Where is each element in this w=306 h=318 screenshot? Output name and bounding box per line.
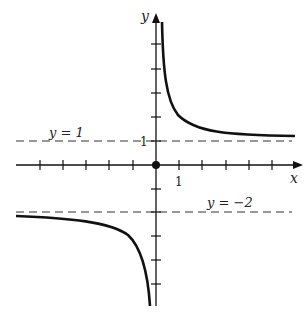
curve-right-branch (162, 22, 295, 136)
x-tick-label-1: 1 (175, 175, 183, 189)
y-axis-arrow-icon (152, 13, 160, 23)
y-axis-label: y (140, 8, 150, 24)
y-axis (151, 13, 161, 306)
asymptote-label-y-neg2: y = −2 (206, 195, 253, 210)
x-axis-label: x (290, 170, 298, 186)
asymptote-label-y-1: y = 1 (48, 125, 84, 140)
curve-left-branch (16, 216, 150, 306)
x-axis-arrow-icon (293, 161, 303, 169)
hyperbola-graph: y x 1 1 y = 1 y = −2 (0, 0, 306, 318)
y-tick-label-1: 1 (140, 135, 148, 149)
origin-point (152, 161, 160, 169)
